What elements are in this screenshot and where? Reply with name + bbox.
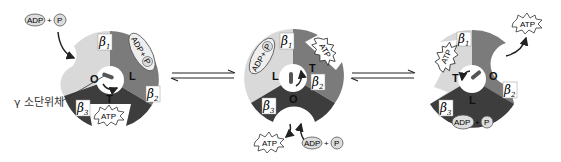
adp-pi-input: ADP + P [25, 14, 66, 26]
svg-text:+: + [324, 139, 329, 148]
gamma-subunit [289, 72, 293, 84]
site-T: T [452, 72, 459, 84]
release-arrow-icon [506, 38, 526, 56]
equilibrium-arrow-1[interactable] [171, 70, 235, 81]
state-2: L T O β1 β2 β3 ATP ADP + P ATP ADP + [244, 29, 344, 153]
svg-text:P: P [484, 118, 489, 127]
state-3: T O L β1 β2 β3 ATP ADP + P ATP [430, 13, 542, 129]
substrate-arrow-icon [58, 32, 74, 58]
svg-text:+: + [47, 16, 52, 25]
svg-text:ADP: ADP [304, 139, 320, 148]
site-L: L [272, 70, 279, 82]
svg-text:+: + [475, 118, 480, 127]
svg-text:P: P [334, 139, 339, 148]
site-L: L [469, 94, 476, 106]
atp-label: ATP [101, 112, 116, 121]
site-O: O [489, 70, 498, 82]
atp-released-label: ATP [520, 20, 535, 29]
site-O: O [289, 93, 298, 105]
adp-pi-entering: ADP + P [302, 137, 343, 149]
svg-text:ADP: ADP [454, 118, 470, 127]
equilibrium-arrow-2[interactable] [351, 70, 415, 81]
site-T: T [106, 93, 113, 105]
binding-change-diagram: O L T β1 β2 β3 ATP ADP + P ADP + P [0, 0, 561, 162]
svg-text:ADP: ADP [27, 16, 43, 25]
entry-arrow-icon [300, 124, 304, 140]
state-1: O L T β1 β2 β3 ATP ADP + P ADP + P [25, 14, 160, 126]
atp-released-label: ATP [262, 139, 277, 148]
svg-text:P: P [57, 16, 62, 25]
gamma-subunit-label: γ 소단위체 [14, 93, 64, 109]
release-arrow-icon [286, 124, 291, 137]
site-L: L [129, 70, 136, 82]
site-T: T [309, 62, 316, 74]
